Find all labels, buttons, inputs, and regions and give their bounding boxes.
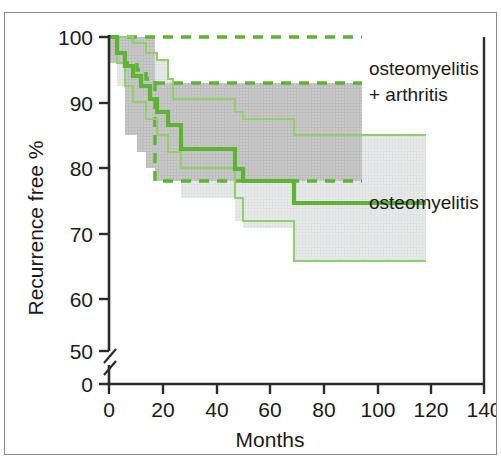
y-tick-label-50: 50 (70, 340, 93, 363)
x-tick-label-120: 120 (413, 398, 448, 421)
annotation-osteomyelitis: osteomyelitis (369, 192, 479, 213)
y-axis-ticks (99, 37, 109, 384)
y-tick-label-60: 60 (70, 288, 93, 311)
x-tick-label-80: 80 (312, 398, 335, 421)
figure-frame: 100 90 80 70 60 50 0 0 20 40 60 80 100 1… (4, 12, 497, 455)
annotation-osteomyelitis-arthritis-line1: osteomyelitis (369, 58, 479, 79)
x-axis-tick-labels: 0 20 40 60 80 100 120 140 (103, 398, 496, 421)
annotation-osteomyelitis-arthritis-line2: + arthritis (369, 84, 448, 105)
x-tick-label-40: 40 (205, 398, 228, 421)
x-tick-label-60: 60 (258, 398, 281, 421)
y-axis-title: Recurrence free % (24, 140, 47, 315)
x-axis-title: Months (236, 428, 305, 451)
kaplan-meier-chart: 100 90 80 70 60 50 0 0 20 40 60 80 100 1… (5, 13, 496, 454)
y-tick-label-100: 100 (58, 26, 93, 49)
y-tick-label-90: 90 (70, 92, 93, 115)
x-tick-label-20: 20 (151, 398, 174, 421)
x-tick-label-0: 0 (103, 398, 115, 421)
y-axis-tick-labels: 100 90 80 70 60 50 0 (58, 26, 93, 396)
x-axis-ticks (109, 384, 484, 394)
y-tick-label-0: 0 (81, 373, 93, 396)
x-tick-label-140: 140 (466, 398, 496, 421)
y-tick-label-80: 80 (70, 157, 93, 180)
x-tick-label-100: 100 (360, 398, 395, 421)
y-tick-label-70: 70 (70, 223, 93, 246)
